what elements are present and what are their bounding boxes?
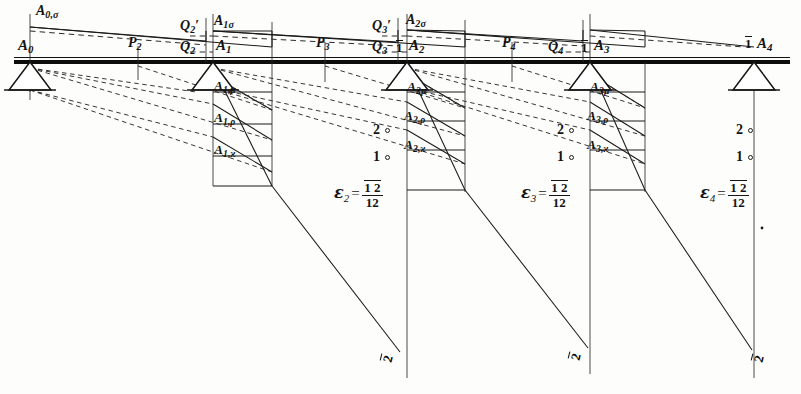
- epsilon-4-fraction: 1 212: [728, 180, 749, 210]
- ordinate-circle-1-span3: [569, 155, 574, 160]
- ordinate-mark-2-span4: 2: [736, 123, 743, 137]
- bar-one-mark-A2: 1: [396, 40, 403, 54]
- area-label-A3-mu: A3μ: [590, 80, 609, 95]
- node-label-A0: A0: [18, 38, 33, 55]
- epsilon-3-formula: ε3=1 212: [521, 180, 570, 210]
- epsilon-3-fraction: 1 212: [549, 180, 570, 210]
- diagram-canvas: .s { stroke:#1a1a1a; fill:none; stroke-w…: [0, 0, 801, 394]
- area-label-A3-kappa: A3,ϰ: [587, 138, 609, 153]
- ordinate-mark-1-span4: 1: [736, 150, 743, 164]
- ordinate-mark-1-span3: 1: [557, 150, 564, 164]
- area-label-A3-rho: A3,ρ: [587, 109, 608, 124]
- ordinate-mark-2-span3: 2: [557, 123, 564, 137]
- ordinate-circle-1-span4: [748, 155, 753, 160]
- ordinate-mark-2-span2: 2: [373, 123, 380, 137]
- area-label-A1-mu: A1,μ: [214, 79, 236, 94]
- node-label-A4: A4: [757, 36, 772, 53]
- shear-label-Q3-prime: Q3′: [372, 19, 391, 35]
- ordinate-circle-2-span2: [385, 128, 390, 133]
- area-label-A2-rho: A2,ρ: [404, 109, 425, 124]
- bar-one-mark-A4: 1: [745, 36, 752, 50]
- area-label-A2-mu: A2μ: [407, 80, 426, 95]
- beam-axis: [14, 58, 790, 63]
- ordinate-circle-2-span3: [569, 128, 574, 133]
- ink-dot: [761, 227, 764, 230]
- area-label-A2-kappa: A2,ϰ: [404, 138, 426, 153]
- ordinate-circle-1-span2: [385, 155, 390, 160]
- load-point-label-P2: P2: [128, 36, 142, 52]
- area-label-A1-rho: A1,ρ: [214, 111, 235, 126]
- sigma-label-A0: A0,σ: [36, 4, 58, 20]
- epsilon-4-formula: ε4=1 212: [700, 180, 749, 210]
- ordinate-circle-2-span4: [748, 128, 753, 133]
- shear-label-Q2: Q2: [180, 40, 195, 56]
- epsilon-symbol-4: ε: [700, 183, 710, 202]
- area-label-A1-kappa: A1,ϰ: [214, 143, 236, 158]
- node-label-A1: A1: [216, 38, 231, 55]
- shear-label-Q4: Q4: [548, 40, 563, 56]
- node-label-A3: A3: [594, 38, 609, 55]
- sigma-label-A2: A2σ: [406, 13, 426, 29]
- load-point-label-P4: P4: [502, 36, 516, 52]
- sigma-label-A1: A1σ: [214, 14, 234, 30]
- epsilon-symbol-3: ε: [521, 183, 531, 202]
- beam-diagram-figure: .s { stroke:#1a1a1a; fill:none; stroke-w…: [0, 0, 801, 394]
- epsilon-2-fraction: 1 212: [362, 180, 383, 210]
- ordinate-mark-1-span2: 1: [373, 150, 380, 164]
- shear-label-Q3: Q3: [372, 40, 387, 56]
- shear-label-Q2-prime: Q2′: [180, 19, 199, 35]
- vertical-reference-lines: [30, 14, 754, 378]
- node-label-A2: A2: [409, 38, 424, 55]
- epsilon-symbol-2: ε: [334, 183, 344, 202]
- load-point-label-P3: P3: [316, 36, 330, 52]
- bar-one-mark-A3: 1: [581, 40, 588, 54]
- epsilon-2-formula: ε2=1 212: [334, 180, 383, 210]
